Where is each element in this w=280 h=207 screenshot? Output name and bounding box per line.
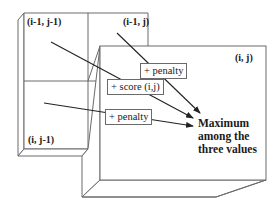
cell-label-current: (i, j) — [235, 52, 253, 63]
dp-cell-diagram — [0, 0, 280, 207]
result-line-3: three values — [198, 143, 257, 156]
op-box-from-left: + penalty — [105, 109, 152, 125]
result-line-1: Maximum — [198, 117, 257, 130]
cell-label-top-left: (i-1, j-1) — [27, 16, 61, 27]
result-text: Maximum among the three values — [198, 117, 257, 156]
cell-label-top-right: (i-1, j) — [123, 16, 149, 27]
op-box-diagonal: + score (i,j) — [107, 79, 164, 95]
op-box-from-top: + penalty — [140, 63, 187, 79]
result-line-2: among the — [198, 130, 257, 143]
cell-label-bottom-left: (i, j-1) — [28, 134, 54, 145]
